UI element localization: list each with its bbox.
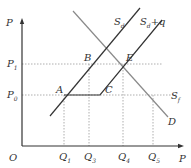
supply-plus-quota-curve: [64, 20, 162, 95]
q5-label: Q5: [148, 151, 160, 164]
q3-label: Q3: [84, 151, 96, 164]
p1-label: P1: [6, 58, 18, 71]
point-b-label: B: [83, 52, 91, 63]
p0-label: P0: [6, 89, 18, 102]
y-axis-arrow-icon: [20, 18, 24, 24]
q4-label: Q4: [118, 151, 130, 164]
demand-label: D: [167, 116, 176, 127]
sd-label: Sd: [114, 16, 125, 29]
point-c-label: C: [105, 84, 113, 95]
q1-label: Q1: [59, 151, 71, 164]
sd-plus-q-label: Sd+q: [140, 16, 165, 29]
supply-demand-diagram: P P O P1 P0 Q1 Q3 Q4 Q5 A B C E Sd Sd+q …: [0, 0, 191, 168]
y-axis-label: P: [5, 17, 13, 28]
point-e-label: E: [125, 52, 134, 63]
sf-label: Sf: [171, 90, 182, 104]
point-a-label: A: [55, 84, 63, 95]
origin-label: O: [9, 152, 17, 163]
axes: [22, 22, 180, 146]
guide-lines: [22, 64, 178, 146]
x-axis-arrow-icon: [178, 144, 184, 148]
x-axis-label: P: [178, 153, 186, 164]
